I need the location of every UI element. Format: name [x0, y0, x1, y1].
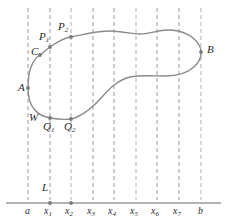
vertical-dashed-lines: [28, 8, 201, 200]
label-point-Q2: Q2: [64, 121, 75, 132]
label-point-Q2-base: Q: [64, 120, 72, 132]
label-point-C: C: [31, 46, 38, 57]
axis-label-x5: x5: [130, 206, 138, 216]
label-point-L-base: L: [42, 181, 48, 193]
point-marker-P2: [69, 35, 73, 39]
label-point-P2: P2: [58, 21, 68, 32]
label-point-B: B: [207, 44, 214, 55]
label-point-W-base: W: [29, 111, 38, 123]
axis-label-x6-sub: 6: [155, 210, 159, 218]
label-point-A-base: A: [18, 81, 25, 93]
label-point-A: A: [18, 82, 25, 93]
point-marker-C: [38, 53, 42, 57]
label-point-Q1: Q1: [43, 121, 54, 132]
label-point-B-base: B: [207, 43, 214, 55]
axis-label-x1-sub: 1: [48, 210, 52, 218]
label-point-Q2-sub: 2: [72, 126, 76, 134]
axis-label-x1: x1: [44, 206, 52, 216]
closed-curve: [28, 30, 201, 119]
axis-label-b: b: [198, 206, 203, 216]
axis-label-b-base: b: [198, 205, 203, 216]
label-point-P1-base: P: [39, 30, 46, 42]
label-point-Q1-sub: 1: [51, 126, 55, 134]
axis-label-x6: x6: [151, 206, 159, 216]
axis-label-x7: x7: [173, 206, 181, 216]
axis-label-x2: x2: [65, 206, 73, 216]
axis-marker-x1: [48, 201, 52, 205]
axis-label-x4-sub: 4: [112, 210, 116, 218]
label-point-P2-sub: 2: [65, 26, 69, 34]
axis-label-a: a: [25, 206, 30, 216]
label-point-P1-sub: 1: [46, 36, 50, 44]
label-point-P2-base: P: [58, 20, 65, 32]
label-point-Q1-base: Q: [43, 120, 51, 132]
point-marker-B: [199, 50, 203, 54]
label-point-P1: P1: [39, 31, 49, 42]
axis-label-x7-sub: 7: [177, 210, 181, 218]
math-figure: A C P1 P2 B W Q1 Q2 L a x1 x2 x3 x4 x5 x…: [0, 0, 227, 222]
axis-label-x2-sub: 2: [69, 210, 73, 218]
point-marker-P1: [48, 45, 52, 49]
label-point-C-base: C: [31, 45, 38, 57]
label-point-W: W: [29, 112, 38, 123]
axis-label-a-base: a: [25, 205, 30, 216]
axis-label-x3: x3: [87, 206, 95, 216]
axis-marker-x2: [69, 201, 73, 205]
label-point-L: L: [42, 182, 48, 193]
axis-label-x5-sub: 5: [134, 210, 138, 218]
axis-label-x4: x4: [108, 206, 116, 216]
axis-label-x3-sub: 3: [91, 210, 95, 218]
point-marker-A: [26, 86, 30, 90]
